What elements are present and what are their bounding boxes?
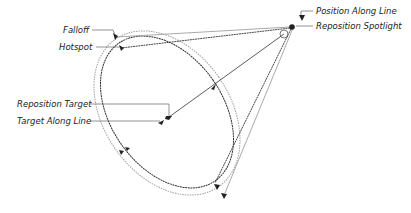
falloff-bottom-arrow-icon[interactable] bbox=[221, 193, 227, 199]
position-along-line-arrow-icon[interactable] bbox=[299, 15, 305, 21]
hotspot-label: Hotspot bbox=[59, 42, 92, 52]
target-along-line-label: Target Along Line bbox=[17, 116, 91, 126]
reposition-target-label: Reposition Target bbox=[17, 99, 91, 109]
falloff-label: Falloff bbox=[63, 25, 89, 35]
falloff-cone-ellipse bbox=[64, 3, 270, 213]
cone-lines bbox=[116, 27, 293, 193]
reposition-spotlight-handle[interactable] bbox=[289, 24, 295, 30]
hotspot-cone-ellipse bbox=[73, 11, 261, 213]
falloff-handle[interactable] bbox=[113, 33, 118, 40]
target-line bbox=[169, 34, 284, 117]
hotspot-handle[interactable] bbox=[119, 45, 124, 51]
reposition-spotlight-label: Reposition Spotlight bbox=[316, 21, 402, 31]
position-along-line-label: Position Along Line bbox=[316, 6, 397, 16]
falloff-left-arrow-icon[interactable] bbox=[119, 150, 124, 155]
reposition-target-handle[interactable] bbox=[165, 116, 172, 120]
